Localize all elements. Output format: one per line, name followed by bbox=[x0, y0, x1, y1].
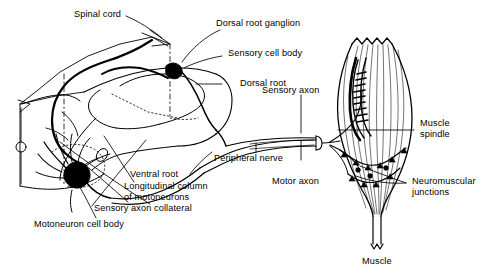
label-muscle: Muscle bbox=[362, 256, 392, 267]
label-peripheral-nerve: Peripheral nerve bbox=[214, 153, 283, 164]
label-muscle-spindle-line2: spindle bbox=[420, 129, 450, 140]
label-motoneuron-cell-body: Motoneuron cell body bbox=[34, 219, 124, 230]
label-motor-axon: Motor axon bbox=[272, 176, 319, 187]
label-dorsal-root-ganglion: Dorsal root ganglion bbox=[216, 18, 300, 29]
label-neuromuscular-line2: junctions bbox=[412, 187, 449, 198]
label-muscle-spindle-line1: Muscle bbox=[420, 118, 450, 129]
label-longitudinal-column-line1: Longitudinal column bbox=[124, 181, 208, 192]
leader-sensory-cell-body bbox=[184, 56, 222, 68]
label-sensory-axon-collateral: Sensory axon collateral bbox=[94, 203, 192, 214]
label-spinal-cord: Spinal cord bbox=[74, 9, 121, 20]
label-sensory-axon: Sensory axon bbox=[262, 85, 319, 96]
label-ventral-root: Ventral root bbox=[130, 169, 178, 180]
label-longitudinal-column-line2: of motoneurons bbox=[124, 192, 189, 203]
muscle-spindle bbox=[350, 58, 371, 140]
spinal-reflex-arc-figure: Spinal cord Dorsal root ganglion Sensory… bbox=[0, 0, 498, 278]
label-neuromuscular-line1: Neuromuscular bbox=[412, 176, 476, 187]
muscle bbox=[338, 38, 412, 249]
label-sensory-cell-body: Sensory cell body bbox=[228, 48, 302, 59]
